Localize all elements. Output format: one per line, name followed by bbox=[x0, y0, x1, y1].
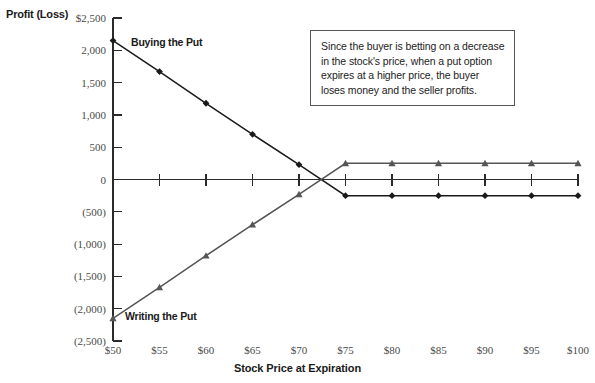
data-point-marker bbox=[156, 284, 163, 290]
data-point-marker bbox=[528, 192, 535, 199]
data-point-marker bbox=[389, 192, 396, 199]
data-point-marker bbox=[482, 192, 489, 199]
data-point-marker bbox=[295, 191, 302, 197]
annotation-callout: Since the buyer is betting on a decrease… bbox=[310, 30, 515, 106]
series-label-writing-the-put: Writing the Put bbox=[125, 310, 196, 322]
x-axis-title: Stock Price at Expiration bbox=[0, 362, 595, 374]
data-point-marker bbox=[435, 192, 442, 199]
chart-page: Profit (Loss) $2,5002,0001,5001,0005000(… bbox=[0, 0, 595, 383]
series-label-buying-the-put: Buying the Put bbox=[131, 36, 202, 48]
data-point-marker bbox=[109, 315, 116, 321]
series-line bbox=[113, 163, 578, 318]
data-point-marker bbox=[249, 221, 256, 227]
data-point-marker bbox=[202, 252, 209, 258]
annotation-text: Since the buyer is betting on a decrease… bbox=[321, 39, 505, 97]
data-point-marker bbox=[575, 192, 582, 199]
